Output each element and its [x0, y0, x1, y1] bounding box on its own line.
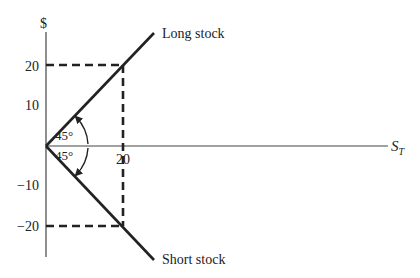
- long-stock-label: Long stock: [162, 26, 225, 41]
- x-tick-20: 20: [116, 152, 130, 167]
- angle-arc-top-icon: [76, 117, 88, 144]
- payoff-chart: $ 20 10 −10 −20 20 45° 45° Long stock Sh…: [0, 0, 420, 278]
- y-tick-minus20: −20: [17, 219, 39, 234]
- y-tick-10: 10: [25, 98, 39, 113]
- short-stock-label: Short stock: [162, 252, 225, 267]
- angle-arc-bottom-icon: [76, 148, 88, 175]
- angle-label-top: 45°: [55, 128, 73, 143]
- angle-label-bottom: 45°: [55, 148, 73, 163]
- y-axis-label: $: [40, 16, 47, 31]
- x-axis-label: ST: [391, 138, 406, 157]
- y-tick-20: 20: [25, 59, 39, 74]
- y-tick-minus10: −10: [17, 178, 39, 193]
- short-stock-line: [46, 146, 154, 260]
